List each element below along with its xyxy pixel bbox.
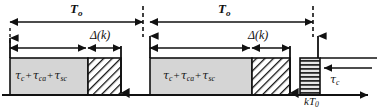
diagram-canvas bbox=[0, 0, 377, 112]
controller-compute-block bbox=[300, 58, 320, 95]
period-2-hatched-block bbox=[252, 58, 290, 95]
axis-tick-label-kT0: kT0 bbox=[304, 96, 319, 107]
period-2-group bbox=[150, 6, 313, 95]
timing-diagram-figure: To Δ(k) τc+τca+τsc To Δ(k) τc+τca+τsc τc… bbox=[0, 0, 377, 112]
period-1-delay-formula: τc+τca+τsc bbox=[15, 70, 67, 81]
period-1-label: To bbox=[70, 2, 83, 15]
period-1-hatched-block bbox=[88, 58, 121, 95]
period-2-delta-label: Δ(k) bbox=[248, 29, 268, 41]
period-2-label: To bbox=[218, 2, 231, 15]
period-1-group bbox=[10, 6, 143, 95]
terminal-tau-c-label: τc bbox=[330, 74, 340, 85]
period-1-delta-label: Δ(k) bbox=[90, 29, 110, 41]
period-2-delay-formula: τc+τca+τsc bbox=[163, 70, 215, 81]
